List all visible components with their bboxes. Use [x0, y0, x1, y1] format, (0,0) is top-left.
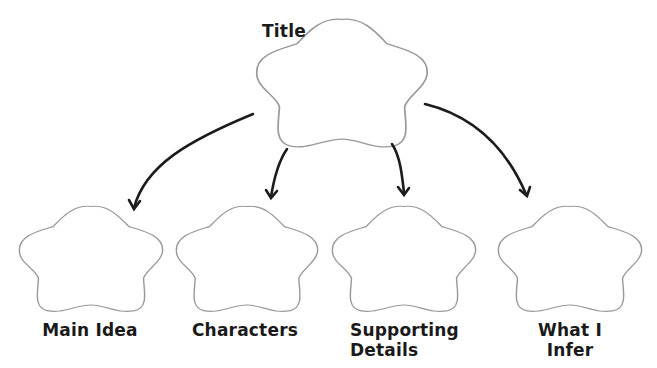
what-i-infer-node-shape — [498, 206, 641, 311]
arrow-to-supporting-details — [392, 144, 409, 195]
characters-label: Characters — [190, 320, 300, 340]
arrow-to-main-idea — [129, 114, 253, 209]
supporting-details-line1: Supporting — [350, 320, 450, 340]
characters-node-shape — [176, 206, 317, 311]
supporting-details-label: Supporting Details — [350, 320, 450, 360]
arrow-to-what-i-infer — [425, 104, 530, 196]
main-idea-node-shape — [19, 206, 162, 311]
what-i-infer-label: What I Infer — [530, 320, 610, 360]
graphic-organizer-diagram — [0, 0, 657, 368]
main-idea-label: Main Idea — [30, 320, 150, 340]
what-i-infer-line1: What I — [530, 320, 610, 340]
supporting-details-line2: Details — [350, 340, 450, 360]
arrow-to-characters — [266, 149, 287, 198]
title-label: Title — [262, 21, 306, 41]
what-i-infer-line2: Infer — [530, 340, 610, 360]
supporting-details-node-shape — [332, 206, 475, 311]
